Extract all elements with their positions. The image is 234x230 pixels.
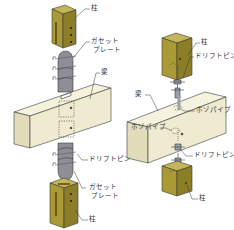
label-left-gusset-top-line1: ガセット — [91, 38, 119, 46]
right-top-post — [162, 33, 192, 80]
label-right-hozo-pipe-top: ホゾパイプ — [196, 107, 231, 115]
label-left-beam: 梁 — [101, 69, 108, 77]
left-top-post — [52, 5, 76, 48]
label-left-gusset-top-line2: プレート — [93, 47, 121, 55]
left-top-gusset-plate — [53, 51, 76, 92]
label-right-post-top: 柱 — [201, 39, 208, 47]
label-left-post-bottom: 柱 — [89, 216, 96, 224]
label-right-drift-pin-bottom: ドリフトピン — [194, 152, 234, 160]
label-right-drift-pin-top: ドリフトピン — [195, 53, 234, 61]
label-right-hozo-pipe-bottom: ホゾパイプ — [131, 124, 166, 132]
label-right-post-bottom: 柱 — [199, 195, 206, 203]
left-bottom-post — [50, 178, 78, 228]
label-left-drift-pin: ドリフトピン — [89, 156, 131, 164]
label-left-gusset-bottom-line2: プレート — [91, 193, 119, 201]
label-left-gusset-bottom-line1: ガセット — [89, 184, 117, 192]
label-left-post-top: 柱 — [91, 5, 98, 13]
hozo-pipe-icon — [170, 80, 185, 98]
right-bottom-post — [162, 161, 192, 196]
left-beam — [14, 84, 111, 148]
label-right-beam: 梁 — [135, 91, 142, 99]
drift-pin-icon — [171, 144, 185, 164]
left-bottom-gusset-plate — [53, 143, 76, 180]
